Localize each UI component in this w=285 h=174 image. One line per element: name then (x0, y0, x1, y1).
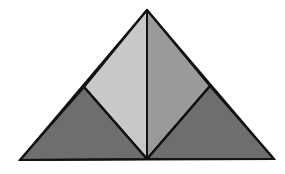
triangle-diagram (0, 0, 285, 174)
diagram-canvas (0, 0, 285, 174)
